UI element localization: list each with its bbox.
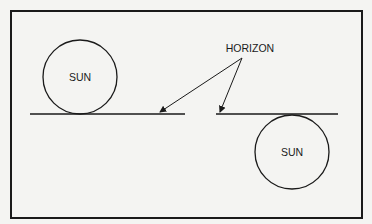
sun-below-horizon: SUN: [255, 115, 329, 189]
sun-label-left: SUN: [69, 71, 91, 83]
arrow-to-left-horizon: [160, 58, 242, 112]
horizon-label: HORIZON: [226, 42, 274, 54]
sun-above-horizon: SUN: [43, 40, 117, 114]
sun-label-right: SUN: [281, 146, 303, 158]
horizon-diagram: SUN SUN HORIZON: [0, 0, 372, 224]
arrow-to-right-horizon: [220, 58, 242, 112]
